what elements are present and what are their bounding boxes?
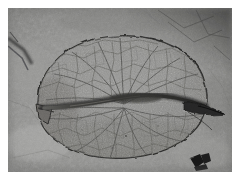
image-description: Black-and-white photograph of a fossiliz…: [0, 173, 239, 179]
film-grain: [8, 8, 232, 172]
photo-page: Black-and-white photograph of a fossiliz…: [0, 0, 239, 179]
fossil-leaf-photograph: [8, 8, 232, 172]
fossil-scene: [8, 8, 232, 172]
